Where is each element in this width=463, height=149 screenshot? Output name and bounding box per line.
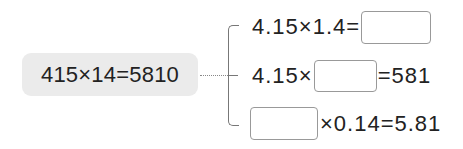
answer-box-2[interactable] <box>314 60 377 92</box>
equation-2-text-right: =581 <box>378 63 432 89</box>
bracket-middle-tick <box>228 75 238 76</box>
source-equation-box: 415×14=5810 <box>22 53 198 96</box>
derived-equation-3: ×0.14=5.81 <box>250 107 441 140</box>
bracket-top-corner <box>228 25 239 34</box>
derived-equation-1: 4.15×1.4= <box>252 12 431 42</box>
source-equation: 415×14=5810 <box>41 62 179 88</box>
answer-box-3[interactable] <box>250 107 318 140</box>
bracket-bottom-corner <box>228 117 239 126</box>
answer-box-1[interactable] <box>361 11 431 44</box>
derived-equation-2: 4.15× =581 <box>252 59 431 92</box>
equation-1-text: 4.15×1.4= <box>252 14 360 40</box>
equation-3-text: ×0.14=5.81 <box>320 111 441 137</box>
equation-2-text-left: 4.15× <box>252 63 313 89</box>
dotted-connector <box>200 75 228 76</box>
